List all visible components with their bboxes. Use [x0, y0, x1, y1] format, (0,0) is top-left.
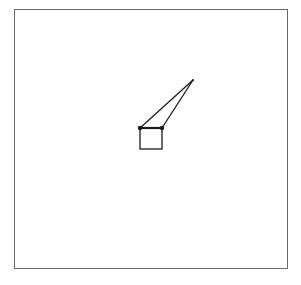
right-joint-icon	[160, 126, 164, 130]
left-joint-icon	[138, 126, 142, 130]
pendulum-diagram	[0, 0, 301, 285]
apex-point-icon	[192, 79, 194, 81]
box	[140, 128, 162, 149]
